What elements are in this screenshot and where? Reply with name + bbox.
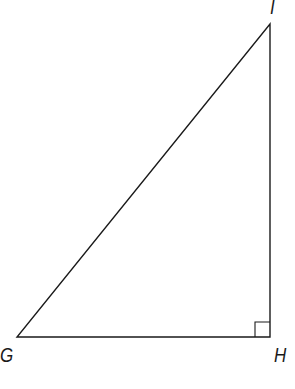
triangle-diagram: I G H [0,0,295,389]
triangle-figure [0,0,295,389]
vertex-label-g: G [0,345,13,365]
vertex-label-i: I [270,0,275,17]
vertex-label-h: H [274,345,286,365]
right-angle-marker [255,322,270,337]
triangle-ghi [17,24,270,337]
